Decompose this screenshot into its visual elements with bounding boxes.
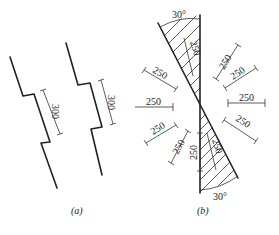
diagram-canvas: 300 300 (a) — [0, 0, 279, 235]
angle-label-bottom: 30° — [213, 191, 227, 202]
svg-text:250: 250 — [148, 120, 167, 137]
dimension-300-a1: 300 — [40, 89, 63, 135]
stagger-line-1 — [10, 57, 57, 188]
svg-text:250: 250 — [188, 145, 199, 160]
dimension-lower-left-1: 250 — [144, 120, 178, 146]
caption-b: (b) — [197, 205, 209, 217]
svg-text:250: 250 — [234, 112, 253, 129]
svg-text:250: 250 — [188, 39, 203, 57]
svg-text:250: 250 — [239, 92, 254, 103]
caption-a: (a) — [71, 205, 83, 217]
svg-text:300: 300 — [106, 95, 117, 110]
svg-text:250: 250 — [228, 64, 247, 81]
svg-text:250: 250 — [210, 137, 225, 155]
dimension-upper-right-2: 250 — [223, 64, 258, 91]
figure-b: 30° 30° 250 250 250 250 — [135, 9, 265, 217]
angle-label-top: 30° — [172, 9, 186, 20]
svg-text:250: 250 — [170, 138, 187, 156]
svg-text:250: 250 — [151, 64, 169, 81]
dimension-right: 250 — [228, 92, 265, 107]
dimension-left: 250 — [135, 96, 173, 111]
angle-arc-bottom — [200, 176, 238, 190]
dimension-lower-right: 250 — [222, 112, 258, 144]
hatch-top — [160, 12, 210, 110]
stagger-line-2 — [66, 43, 102, 175]
dimension-300-a2: 300 — [98, 79, 117, 125]
svg-text:300: 300 — [50, 104, 61, 119]
dimension-upper-left: 250 — [142, 64, 178, 92]
svg-text:250: 250 — [146, 96, 161, 107]
figure-a: 300 300 (a) — [10, 43, 117, 217]
